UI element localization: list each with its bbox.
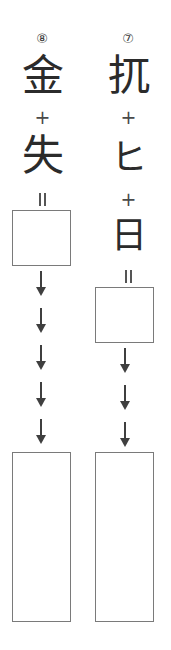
practice-box-right[interactable] xyxy=(95,452,154,622)
down-arrow-left-3 xyxy=(34,345,48,371)
practice-box-left[interactable] xyxy=(12,452,71,622)
operator-plus-right-2: + xyxy=(86,190,171,209)
exercise-column-right: ⑦ 扤 + ヒ + 日 xyxy=(86,0,171,650)
exercise-column-left: ⑧ 金 + 失 xyxy=(0,0,85,650)
component-glyph-shitsu: 失 xyxy=(0,135,85,177)
arrow-head xyxy=(120,438,130,447)
arrow-head xyxy=(120,401,130,410)
down-arrow-right-1 xyxy=(118,348,132,374)
equals-stroke-1 xyxy=(125,270,127,283)
operator-plus-left-1: + xyxy=(0,108,85,127)
exercise-index-badge-left: ⑧ xyxy=(31,28,53,50)
down-arrow-left-1 xyxy=(34,271,48,297)
answer-box-left[interactable] xyxy=(12,210,71,266)
component-glyph-hi: ヒ xyxy=(86,140,171,176)
component-glyph-hi-sun: 日 xyxy=(86,218,171,254)
equals-stroke-2 xyxy=(44,193,46,206)
arrow-head xyxy=(36,398,46,407)
down-arrow-left-2 xyxy=(34,308,48,334)
equals-stroke-1 xyxy=(39,193,41,206)
arrow-head xyxy=(36,435,46,444)
down-arrow-left-4 xyxy=(34,382,48,408)
arrow-head xyxy=(36,287,46,296)
equals-stroke-2 xyxy=(130,270,132,283)
operator-equals-left xyxy=(0,193,85,207)
component-glyph-tehen: 扤 xyxy=(86,55,171,97)
down-arrow-right-3 xyxy=(118,422,132,448)
arrow-head xyxy=(36,324,46,333)
worksheet-page: ⑧ 金 + 失 ⑦ xyxy=(0,0,171,650)
exercise-index-badge-right: ⑦ xyxy=(117,28,139,50)
arrow-head xyxy=(120,364,130,373)
component-glyph-kane: 金 xyxy=(0,55,85,97)
down-arrow-right-2 xyxy=(118,385,132,411)
operator-equals-right xyxy=(86,270,171,284)
down-arrow-left-5 xyxy=(34,419,48,445)
answer-box-right[interactable] xyxy=(95,287,154,343)
arrow-head xyxy=(36,361,46,370)
operator-plus-right-1: + xyxy=(86,108,171,127)
